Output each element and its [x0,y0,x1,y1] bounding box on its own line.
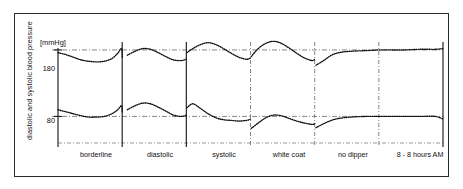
category-label-borderline: borderline [80,150,112,159]
category-label-systolic: systolic [212,150,236,159]
blood-pressure-figure: diastolic and systolic blood pressure [m… [0,0,463,189]
category-label-time-range: 8 - 8 hours AM [397,150,444,159]
category-label-no-dipper: no dipper [338,150,368,159]
y-tick-label-80: 80 [33,116,55,125]
y-tick-label-180: 180 [33,64,55,73]
y-axis-unit-label: [mmHg] [40,38,66,47]
y-axis-title: diastolic and systolic blood pressure [25,6,34,156]
category-label-white-coat: white coat [273,150,305,159]
category-label-diastolic: diastolic [147,150,173,159]
